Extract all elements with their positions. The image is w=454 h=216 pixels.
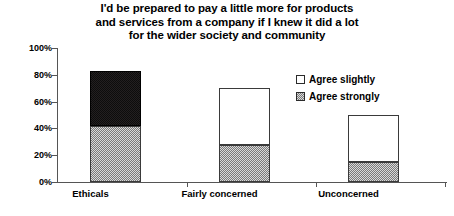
y-axis-tick-0 [52, 182, 57, 183]
x-axis-category-fairly-concerned: Fairly concerned [179, 188, 260, 199]
bar-fairly-concerned[interactable] [219, 88, 270, 182]
legend-swatch-agree-strongly-icon [296, 92, 305, 101]
chart-container: I'd be prepared to pay a little more for… [0, 0, 454, 216]
bar-segment-ethicals-agree-strongly[interactable] [90, 126, 141, 182]
legend-item-agree-slightly[interactable]: Agree slightly [296, 72, 446, 87]
y-axis-label-80: 80% [6, 71, 52, 80]
x-axis-tick-1 [187, 182, 188, 187]
bar-segment-unconcerned-agree-strongly[interactable] [348, 162, 399, 182]
legend-label-agree-slightly: Agree slightly [309, 75, 375, 85]
bar-segment-fairly-concerned-agree-strongly[interactable] [219, 145, 270, 183]
chart-title-line-3: for the wider society and community [0, 29, 454, 43]
bar-segment-ethicals-agree-slightly[interactable] [90, 71, 141, 126]
y-axis-label-20: 20% [6, 151, 52, 160]
bar-segment-fairly-concerned-agree-slightly[interactable] [219, 88, 270, 144]
bar-unconcerned[interactable] [348, 115, 399, 182]
y-axis-tick-60 [52, 102, 57, 103]
y-axis-label-0: 0% [6, 178, 52, 187]
x-axis-category-unconcerned: Unconcerned [308, 188, 389, 199]
y-axis-line [57, 48, 58, 182]
y-axis-label-40: 40% [6, 124, 52, 133]
y-axis-label-60: 60% [6, 98, 52, 107]
chart-title-line-2: and services from a company if I knew it… [0, 16, 454, 30]
y-axis-tick-40 [52, 128, 57, 129]
y-axis-tick-20 [52, 155, 57, 156]
y-axis-label-100: 100% [6, 44, 52, 53]
y-axis-tick-100 [52, 48, 57, 49]
plot-area [57, 48, 447, 182]
chart-title: I'd be prepared to pay a little more for… [0, 2, 454, 43]
y-axis-tick-80 [52, 75, 57, 76]
x-axis-category-ethicals: Ethicals [50, 188, 131, 199]
x-axis-tick-3 [445, 182, 446, 187]
x-axis-line [57, 182, 447, 183]
bar-ethicals[interactable] [90, 71, 141, 182]
x-axis-tick-2 [316, 182, 317, 187]
legend-item-agree-strongly[interactable]: Agree strongly [296, 89, 446, 104]
chart-legend: Agree slightly Agree strongly [296, 72, 446, 106]
bar-segment-unconcerned-agree-slightly[interactable] [348, 115, 399, 162]
legend-swatch-agree-slightly-icon [296, 75, 305, 84]
chart-title-line-1: I'd be prepared to pay a little more for… [0, 2, 454, 16]
legend-label-agree-strongly: Agree strongly [309, 92, 380, 102]
